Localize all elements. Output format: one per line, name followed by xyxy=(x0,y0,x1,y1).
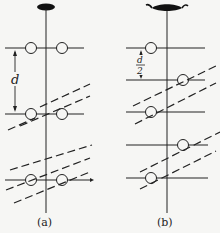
caption-a: (a) xyxy=(37,216,52,229)
panel-a: d (a) xyxy=(5,4,94,230)
atom-circle xyxy=(146,43,157,54)
source-tail-left xyxy=(146,5,152,8)
arrow-head-down xyxy=(13,106,17,112)
source-tail-right xyxy=(182,5,188,8)
diagram-canvas: d (a) d xyxy=(0,0,220,233)
spacing-label-d: d xyxy=(11,72,19,87)
spacing-label-den: 2 xyxy=(136,66,143,76)
atom-circle xyxy=(26,43,37,54)
panel-b: d 2 (b) xyxy=(126,4,220,229)
spacing-label-num: d xyxy=(137,55,143,65)
source-ellipse-b xyxy=(152,4,182,11)
atom-circle xyxy=(57,43,68,54)
dashed-planes-a xyxy=(6,84,92,203)
caption-b: (b) xyxy=(157,216,173,229)
arrow-head-up xyxy=(13,50,17,56)
arrow-head-a-3 xyxy=(90,178,94,182)
dashed-planes-b xyxy=(133,66,220,189)
